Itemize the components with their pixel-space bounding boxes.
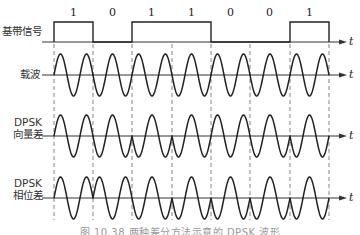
label-dpsk-vector-line1: DPSK xyxy=(10,116,46,128)
waveforms xyxy=(54,22,329,219)
label-baseband: 基带信号 xyxy=(2,25,42,37)
figure-caption: 图 10.38 两种差分方法示意的 DPSK 波形 xyxy=(0,224,360,235)
bit-label-3: 1 xyxy=(132,6,171,19)
label-dpsk-phase: DPSK 相位差 xyxy=(10,177,46,201)
bit-boundary-dashes xyxy=(54,44,329,220)
label-carrier: 载波 xyxy=(20,68,40,80)
bit-label-7: 1 xyxy=(290,6,329,19)
bit-label-6: 0 xyxy=(250,6,289,19)
dpsk-waveform-diagram xyxy=(0,0,360,235)
bit-label-4: 1 xyxy=(172,6,211,19)
label-dpsk-phase-line1: DPSK xyxy=(10,177,46,189)
bit-label-2: 0 xyxy=(93,6,132,19)
axis-label-t-dpsk-vector: t xyxy=(349,129,353,142)
label-dpsk-phase-line2: 相位差 xyxy=(10,189,46,201)
axis-label-t-carrier: t xyxy=(349,68,353,81)
label-dpsk-vector: DPSK 向量差 xyxy=(10,116,46,140)
bit-label-5: 0 xyxy=(211,6,250,19)
label-dpsk-vector-line2: 向量差 xyxy=(10,128,46,140)
axis-label-t-baseband: t xyxy=(349,35,353,48)
bit-label-1: 1 xyxy=(54,6,93,19)
axis-label-t-dpsk-phase: t xyxy=(349,191,353,204)
